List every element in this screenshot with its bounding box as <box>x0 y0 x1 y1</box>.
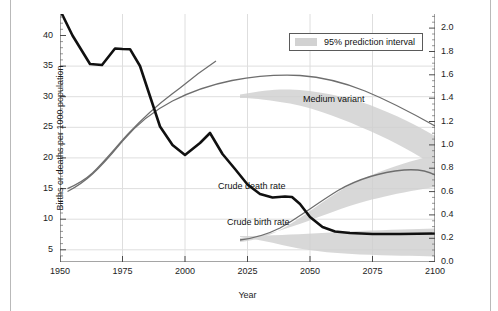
y-left-tick-35: 35 <box>23 60 53 70</box>
legend-swatch-prediction-interval <box>295 38 317 46</box>
y-left-tick-40: 40 <box>23 30 53 40</box>
x-tick-2050: 2050 <box>290 266 330 276</box>
figure-right-border <box>490 0 491 311</box>
annotation-crude-death-rate: Crude death rate <box>218 181 286 191</box>
annotation-medium-variant: Medium variant <box>303 94 365 104</box>
x-axis-title: Year <box>60 290 435 300</box>
gridlines-vertical <box>60 14 373 262</box>
y-left-tick-20: 20 <box>23 152 53 162</box>
y-right-tick-1-0: 1.0 <box>441 139 475 149</box>
x-tick-1975: 1975 <box>103 266 143 276</box>
y-left-tick-25: 25 <box>23 121 53 131</box>
y-right-tick-1-2: 1.2 <box>441 116 475 126</box>
x-tick-2000: 2000 <box>165 266 205 276</box>
y-right-tick-0-4: 0.4 <box>441 209 475 219</box>
y-left-tick-15: 15 <box>23 183 53 193</box>
y-right-tick-1-6: 1.6 <box>441 69 475 79</box>
annotation-crude-birth-rate: Crude birth rate <box>227 217 290 227</box>
y-right-tick-2-0: 2.0 <box>441 22 475 32</box>
y-right-tick-1-8: 1.8 <box>441 46 475 56</box>
band-crude-death-rate <box>240 155 435 242</box>
y-right-tick-1-4: 1.4 <box>441 92 475 102</box>
y-left-tick-10: 10 <box>23 213 53 223</box>
y-left-tick-30: 30 <box>23 91 53 101</box>
population-projection-figure: Medium variant Crude death rate Crude bi… <box>0 0 498 311</box>
figure-left-border <box>10 0 11 311</box>
x-tick-1950: 1950 <box>40 266 80 276</box>
y-right-tick-0-2: 0.2 <box>441 232 475 242</box>
x-tick-2100: 2100 <box>415 266 455 276</box>
plot-area: Medium variant Crude death rate Crude bi… <box>60 14 435 262</box>
x-axis-ticks <box>60 256 435 262</box>
chart-legend: 95% prediction interval <box>289 33 423 51</box>
legend-label-prediction-interval: 95% prediction interval <box>324 37 415 47</box>
y-right-tick-0-0: 0.0 <box>441 256 475 266</box>
y-left-tick-5: 5 <box>23 244 53 254</box>
x-tick-2025: 2025 <box>228 266 268 276</box>
y-axis-left-title: Births or deaths per 1000 population <box>54 14 66 262</box>
y-right-tick-0-8: 0.8 <box>441 162 475 172</box>
y-right-tick-0-6: 0.6 <box>441 186 475 196</box>
x-tick-2075: 2075 <box>353 266 393 276</box>
